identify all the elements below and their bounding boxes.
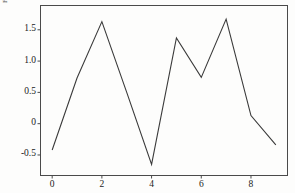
plot-canvas	[0, 0, 295, 193]
chart-figure: F 1.5 1.0 0.5 0 -0.5 0 2 4 6 8	[0, 0, 295, 193]
data-series-line	[52, 19, 276, 164]
plot-frame	[41, 6, 288, 176]
